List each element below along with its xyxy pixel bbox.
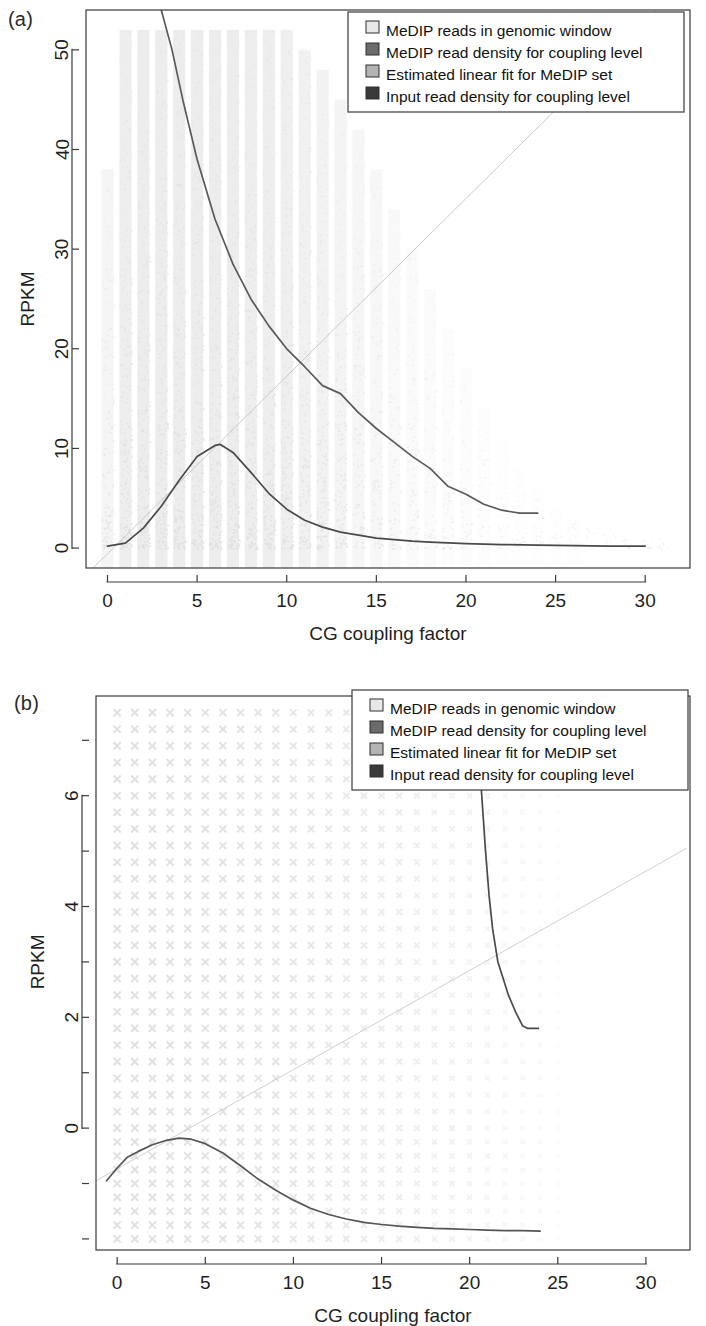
panel-b-plot: 051015202530CG coupling factor0246RPKMMe… [0,648,706,1326]
y-tick-label: 0 [52,543,73,554]
y-tick-label: 2 [62,1012,83,1023]
x-tick-label: 0 [112,1272,123,1293]
y-axis: 0246 [62,740,90,1239]
legend-label: Estimated linear fit for MeDIP set [386,66,613,83]
x-axis-title: CG coupling factor [309,623,467,644]
x-tick-label: 10 [283,1272,304,1293]
panel-a-plot: 051015202530CG coupling factor0102030405… [0,0,706,648]
legend-swatch [366,21,379,33]
x-tick-label: 20 [459,1272,480,1293]
legend-label: MeDIP read density for coupling level [386,44,642,61]
legend-label: Input read density for coupling level [390,766,634,783]
legend-item: Input read density for coupling level [366,87,630,105]
legend-swatch [370,699,383,711]
x-tick-label: 15 [366,590,387,611]
x-tick-label: 5 [192,590,203,611]
legend-item: MeDIP read density for coupling level [366,43,642,61]
x-axis: 051015202530 [102,575,656,611]
legend: MeDIP reads in genomic windowMeDIP read … [348,12,684,112]
x-tick-label: 15 [371,1272,392,1293]
legend-label: Estimated linear fit for MeDIP set [390,744,617,761]
x-tick-label: 5 [200,1272,211,1293]
legend-item: Estimated linear fit for MeDIP set [366,65,613,83]
y-tick-label: 10 [52,438,73,459]
x-tick-label: 10 [276,590,297,611]
x-tick-label: 30 [635,590,656,611]
panel-a: (a) 051015202530CG coupling factor010203… [0,0,706,648]
y-tick-label: 30 [52,239,73,260]
y-axis-title: RPKM [28,934,49,989]
legend-swatch [370,743,383,755]
x-tick-label: 30 [635,1272,656,1293]
y-axis-title: RPKM [18,272,39,327]
x-axis: 051015202530 [112,1257,657,1293]
legend-swatch [366,43,379,55]
legend-swatch [366,87,379,99]
y-tick-label: 50 [52,39,73,60]
x-tick-label: 25 [545,590,566,611]
y-tick-label: 40 [52,139,73,160]
legend: MeDIP reads in genomic windowMeDIP read … [352,690,688,790]
legend-label: MeDIP read density for coupling level [390,722,646,739]
y-tick-label: 6 [62,790,83,801]
legend-swatch [366,65,379,77]
legend-swatch [370,765,383,777]
legend-item: MeDIP read density for coupling level [370,721,646,739]
figure-container: (a) 051015202530CG coupling factor010203… [0,0,706,1326]
legend-item: Input read density for coupling level [370,765,634,783]
y-tick-label: 4 [62,901,83,912]
panel-b: (b) 051015202530CG coupling factor0246RP… [0,648,706,1326]
legend-label: MeDIP reads in genomic window [390,700,616,717]
legend-item: Estimated linear fit for MeDIP set [370,743,617,761]
y-tick-label: 0 [62,1123,83,1134]
y-axis: 01020304050 [52,39,80,553]
legend-swatch [370,721,383,733]
x-tick-label: 25 [547,1272,568,1293]
x-axis-title: CG coupling factor [314,1305,472,1326]
legend-label: MeDIP reads in genomic window [386,22,612,39]
legend-label: Input read density for coupling level [386,88,630,105]
legend-item: MeDIP reads in genomic window [366,21,612,39]
x-tick-label: 0 [102,590,113,611]
y-tick-label: 20 [52,338,73,359]
x-tick-label: 20 [455,590,476,611]
legend-item: MeDIP reads in genomic window [370,699,616,717]
